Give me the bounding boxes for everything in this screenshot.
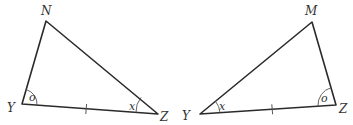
tick-mark-yz-right xyxy=(272,104,273,114)
vertex-label-z-right: Z xyxy=(338,102,348,116)
tick-mark-yz-left xyxy=(86,104,87,114)
vertex-label-y-right: Y xyxy=(182,109,191,123)
vertex-label-n: N xyxy=(40,4,52,18)
angle-label-y-right: x xyxy=(219,100,226,113)
triangle-nyz: N Y Z o x xyxy=(7,4,169,124)
triangle-myz: M Y Z x o xyxy=(182,4,348,123)
vertex-label-y-left: Y xyxy=(7,101,16,115)
angle-label-z-right: o xyxy=(321,92,328,105)
triangles-diagram: N Y Z o x M Y Z x o xyxy=(0,0,353,125)
triangle-nyz-outline xyxy=(22,21,158,114)
vertex-label-m: M xyxy=(304,4,318,18)
angle-label-z-left: x xyxy=(129,100,136,113)
angle-label-y-left: o xyxy=(29,91,36,104)
vertex-label-z-left: Z xyxy=(159,110,169,124)
